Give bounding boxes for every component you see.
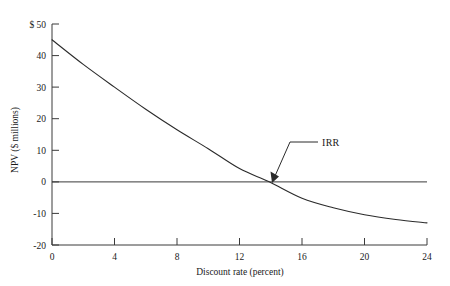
x-tick-label-0: 0 bbox=[50, 252, 55, 262]
npv-profile-curve bbox=[52, 40, 427, 223]
y-tick-label-minus20: -20 bbox=[33, 241, 46, 251]
y-tick-label-50: $ 50 bbox=[29, 20, 46, 30]
x-tick-label-4: 4 bbox=[112, 252, 117, 262]
npv-profile-chart: $ 50 40 30 20 10 0 -10 -20 NPV ($ millio… bbox=[0, 0, 450, 286]
y-axis-title: NPV ($ millions) bbox=[10, 107, 21, 173]
y-tick-label-40: 40 bbox=[37, 51, 47, 61]
x-tick-label-8: 8 bbox=[175, 252, 180, 262]
irr-annotation-label: IRR bbox=[322, 137, 340, 148]
y-tick-label-minus10: -10 bbox=[33, 209, 46, 219]
y-tick-label-30: 30 bbox=[37, 83, 47, 93]
x-tick-label-24: 24 bbox=[422, 252, 432, 262]
chart-canvas: $ 50 40 30 20 10 0 -10 -20 NPV ($ millio… bbox=[0, 0, 450, 286]
x-tick-label-12: 12 bbox=[235, 252, 245, 262]
x-tick-label-20: 20 bbox=[360, 252, 370, 262]
x-axis-title: Discount rate (percent) bbox=[196, 267, 284, 278]
x-tick-label-16: 16 bbox=[297, 252, 307, 262]
y-tick-label-0: 0 bbox=[41, 177, 46, 187]
y-tick-label-20: 20 bbox=[37, 114, 47, 124]
irr-arrow-shaft bbox=[275, 142, 290, 176]
irr-arrow-head bbox=[271, 172, 280, 184]
y-tick-label-10: 10 bbox=[37, 146, 47, 156]
